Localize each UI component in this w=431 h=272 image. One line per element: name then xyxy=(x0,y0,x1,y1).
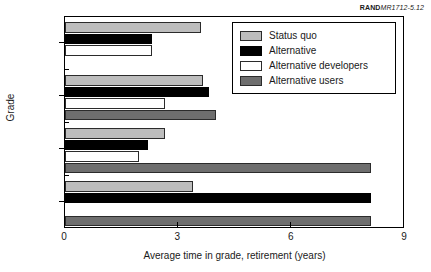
x-tick-label-0: 0 xyxy=(49,231,79,242)
y-tick-minor xyxy=(65,69,69,70)
y-tick-o-7 xyxy=(59,42,65,43)
legend-swatch-alternative xyxy=(240,46,262,56)
chart-legend: Status quoAlternativeAlternative develop… xyxy=(232,22,396,94)
legend-item-altusers: Alternative users xyxy=(240,73,389,88)
x-tick-label-6: 6 xyxy=(276,231,306,242)
rand-report-id: MR1712-5.12 xyxy=(380,4,424,11)
x-axis-title: Average time in grade, retirement (years… xyxy=(64,250,405,261)
bar-o-9-alternative xyxy=(65,140,148,151)
bar-o-10-status-quo xyxy=(65,181,193,192)
bar-o-9-status-quo xyxy=(65,128,165,139)
rand-source-note: RANDMR1712-5.12 xyxy=(360,4,424,11)
bar-o-7-alternative-developers xyxy=(65,45,152,56)
x-tick-6 xyxy=(290,222,291,228)
bar-o-8-alternative-developers xyxy=(65,98,165,109)
legend-item-statusquo: Status quo xyxy=(240,28,389,43)
bar-o-10-alternative-users xyxy=(65,216,371,227)
y-tick-minor xyxy=(65,175,69,176)
x-tick-label-3: 3 xyxy=(162,231,192,242)
legend-label-altdev: Alternative developers xyxy=(269,60,368,71)
y-axis-title: Grade xyxy=(5,78,16,138)
bar-o-7-status-quo xyxy=(65,22,201,33)
y-tick-o-10 xyxy=(59,201,65,202)
y-tick-o-9 xyxy=(59,148,65,149)
bar-o-8-alternative-users xyxy=(65,110,216,121)
bar-o-7-alternative xyxy=(65,34,152,45)
legend-swatch-altdev xyxy=(240,61,262,71)
bar-chart-figure: RANDMR1712-5.12 Grade Average time in gr… xyxy=(0,0,431,272)
legend-item-altdev: Alternative developers xyxy=(240,58,389,73)
y-tick-o-8 xyxy=(59,95,65,96)
legend-swatch-statusquo xyxy=(240,31,262,41)
bar-o-8-status-quo xyxy=(65,75,203,86)
rand-logo-text: RAND xyxy=(360,4,381,11)
bar-o-10-alternative xyxy=(65,193,371,204)
legend-item-alternative: Alternative xyxy=(240,43,389,58)
bar-o-8-alternative xyxy=(65,87,209,98)
legend-label-alternative: Alternative xyxy=(269,45,316,56)
bar-o-9-alternative-users xyxy=(65,163,371,174)
y-tick-minor xyxy=(65,122,69,123)
legend-swatch-altusers xyxy=(240,76,262,86)
legend-label-altusers: Alternative users xyxy=(269,75,343,86)
x-tick-label-9: 9 xyxy=(389,231,419,242)
bar-o-9-alternative-developers xyxy=(65,151,139,162)
x-tick-3 xyxy=(177,222,178,228)
legend-label-statusquo: Status quo xyxy=(269,30,317,41)
